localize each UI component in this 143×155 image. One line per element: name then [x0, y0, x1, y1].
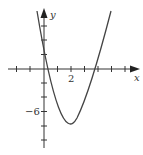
parabola-curve — [37, 11, 111, 124]
y-tick-label-neg6: −6 — [25, 106, 40, 117]
x-tick-label-2: 2 — [68, 73, 74, 84]
chart-canvas: y x 2 −6 — [0, 0, 143, 155]
y-axis-label: y — [49, 9, 56, 20]
x-axis-label: x — [134, 72, 140, 83]
y-axis-arrow-icon — [41, 8, 48, 18]
